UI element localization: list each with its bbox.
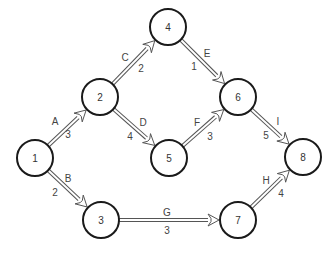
activity-label: D xyxy=(139,117,146,128)
activity-label: B xyxy=(65,173,72,184)
node-label: 5 xyxy=(166,153,172,164)
node-6: 6 xyxy=(220,79,256,115)
activity-label: H xyxy=(262,175,269,186)
duration-label: 3 xyxy=(207,131,213,142)
node-label: 6 xyxy=(235,92,241,103)
node-label: 3 xyxy=(98,215,104,226)
duration-label: 1 xyxy=(191,61,197,72)
duration-label: 5 xyxy=(263,130,269,141)
edge-C xyxy=(113,41,155,84)
duration-label: 3 xyxy=(164,225,170,236)
node-label: 2 xyxy=(97,92,103,103)
arrowhead-icon xyxy=(208,214,219,226)
node-label: 7 xyxy=(235,215,241,226)
duration-label: 2 xyxy=(138,63,144,74)
edge-I xyxy=(251,109,289,144)
node-4: 4 xyxy=(150,9,186,45)
edges-layer xyxy=(48,40,289,226)
edge-E xyxy=(181,40,225,84)
node-3: 3 xyxy=(83,202,119,238)
node-2: 2 xyxy=(82,79,118,115)
node-label: 4 xyxy=(165,22,171,33)
edge-F xyxy=(182,110,223,146)
node-5: 5 xyxy=(151,140,187,176)
activity-label: C xyxy=(121,52,128,63)
node-7: 7 xyxy=(220,202,256,238)
node-1: 1 xyxy=(17,140,53,176)
nodes-layer: 12345678 xyxy=(17,9,321,238)
duration-label: 4 xyxy=(127,131,133,142)
activity-label: A xyxy=(52,116,59,127)
node-8: 8 xyxy=(285,139,321,175)
network-diagram: 12345678 A3B2C2D4E1F3G3H4I5 xyxy=(0,0,335,253)
duration-label: 2 xyxy=(52,187,58,198)
node-label: 8 xyxy=(300,152,306,163)
duration-label: 4 xyxy=(278,188,284,199)
activity-label: G xyxy=(163,207,171,218)
activity-label: E xyxy=(204,48,211,59)
duration-label: 3 xyxy=(65,129,71,140)
node-label: 1 xyxy=(32,153,38,164)
activity-label: I xyxy=(277,116,280,127)
activity-label: F xyxy=(194,117,200,128)
edge-D xyxy=(113,109,154,145)
